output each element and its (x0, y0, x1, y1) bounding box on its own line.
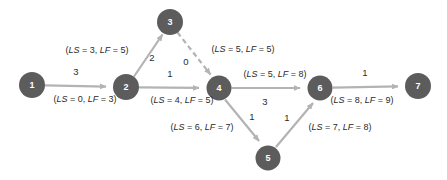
node-2[interactable]: 2 (113, 74, 139, 100)
edge-weight-4-to-5: 1 (249, 111, 254, 122)
edge-1-to-2[interactable] (45, 85, 106, 86)
edge-weight-4-to-6: 3 (262, 96, 267, 107)
node-7-label: 7 (415, 81, 420, 91)
edge-weight-1-to-2: 3 (73, 66, 78, 77)
node-1[interactable]: 1 (19, 72, 45, 98)
annotation-1-to-2: (LS = 0, LF = 3) (53, 94, 116, 104)
node-1-label: 1 (29, 80, 34, 90)
edge-weight-3-to-4: 0 (183, 56, 188, 67)
node-6[interactable]: 6 (308, 76, 333, 101)
edge-5-to-6[interactable] (276, 103, 313, 147)
network-diagram-canvas: 1 2 3 4 5 6 (0, 0, 447, 180)
edge-6-to-7[interactable] (333, 86, 398, 87)
edge-2-to-4[interactable] (139, 87, 199, 88)
annotation-4-to-6: (LS = 5, LF = 8) (243, 69, 306, 79)
node-5-label: 5 (265, 153, 270, 163)
node-6-label: 6 (317, 83, 322, 93)
annotation-2-to-3: (LS = 3, LF = 5) (65, 45, 128, 55)
edge-2-to-3[interactable] (134, 35, 163, 77)
node-7[interactable]: 7 (405, 73, 431, 99)
node-2-label: 2 (123, 82, 128, 92)
annotation-2-to-4: (LS = 4, LF = 5) (150, 95, 213, 105)
annotation-4-to-5: (LS = 6, LF = 7) (170, 122, 233, 132)
edge-weight-2-to-4: 1 (167, 68, 172, 79)
network-diagram: 1 2 3 4 5 6 (0, 0, 447, 180)
node-3-label: 3 (167, 17, 172, 27)
annotation-6-to-7: (LS = 8, LF = 9) (330, 95, 393, 105)
node-4-label: 4 (216, 83, 221, 93)
nodes-group: 1 2 3 4 5 6 (19, 9, 431, 171)
edge-weight-5-to-6: 1 (284, 112, 289, 123)
edge-weight-6-to-7: 1 (362, 67, 367, 78)
annotation-3-to-4: (LS = 5, LF = 5) (211, 44, 274, 54)
node-5[interactable]: 5 (256, 146, 281, 171)
node-3[interactable]: 3 (157, 9, 183, 35)
edge-3-to-4[interactable] (178, 33, 211, 75)
edge-weight-2-to-3: 2 (149, 52, 154, 63)
annotation-5-to-6: (LS = 7, LF = 8) (308, 122, 371, 132)
